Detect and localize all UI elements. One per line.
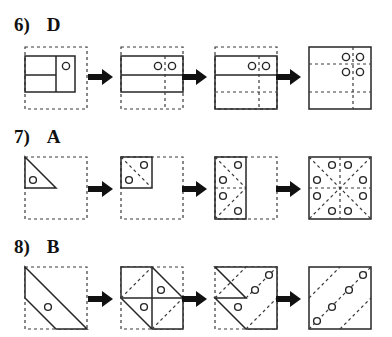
fold-shape-dashed-2: [340, 298, 371, 329]
hole-circle-0: [248, 62, 255, 69]
hole-circle-1: [329, 304, 336, 311]
right-arrow-glyph: [88, 181, 113, 197]
hole-circle-2: [314, 177, 321, 184]
hole-circle-2: [346, 287, 353, 294]
panel-7-3: [212, 154, 280, 222]
panel-6-3: [212, 44, 280, 112]
right-arrow-glyph: [182, 69, 207, 85]
right-arrow-icon: [88, 180, 114, 198]
hole-circle-3: [360, 272, 367, 279]
fold-shape-solid-0: [25, 56, 75, 92]
right-arrow-icon: [276, 68, 302, 86]
panel-8-3-graphic: [212, 264, 280, 332]
panel-8-1-graphic: [22, 264, 90, 332]
hole-circle-1: [235, 162, 242, 169]
fold-shape-dashed-0: [309, 267, 340, 298]
hole-circle-1: [158, 287, 165, 294]
right-arrow-glyph: [182, 181, 207, 197]
hole-circle-3: [356, 68, 363, 75]
panel-8-1: [22, 264, 90, 332]
panel-7-3-graphic: [212, 154, 280, 222]
hole-circle-0: [62, 62, 69, 69]
panel-6-4: [306, 44, 374, 112]
fold-shape-dashed-2: [215, 188, 246, 219]
hole-circle-4: [314, 193, 321, 200]
hole-circle-0: [329, 162, 336, 169]
row-7-label: 7)A: [14, 126, 61, 148]
panel-8-4-graphic: [306, 264, 374, 332]
hole-circle-1: [345, 162, 352, 169]
panel-7-1: [22, 154, 90, 222]
row-6-answer: D: [47, 14, 61, 36]
right-arrow-glyph: [276, 291, 301, 307]
panel-6-2-graphic: [118, 44, 186, 112]
hole-circle-1: [356, 53, 363, 60]
panel-8-3: [212, 264, 280, 332]
panel-8-2: [118, 264, 186, 332]
arrow-7-2: [182, 180, 208, 198]
panel-6-3-graphic: [212, 44, 280, 112]
right-arrow-icon: [182, 180, 208, 198]
right-arrow-icon: [182, 68, 208, 86]
hole-circle-0: [126, 177, 133, 184]
row-8-number: 8): [14, 236, 30, 257]
hole-circle-1: [168, 62, 175, 69]
hole-circle-1: [262, 62, 269, 69]
hole-circle-0: [235, 304, 242, 311]
panel-7-4-graphic: [306, 154, 374, 222]
panel-6-1: [22, 44, 90, 112]
fold-shape-solid-0: [121, 56, 183, 92]
row-6-label: 6)D: [14, 14, 61, 36]
arrow-7-3: [276, 180, 302, 198]
hole-circle-0: [45, 304, 52, 311]
hole-circle-0: [314, 318, 321, 325]
panel-7-2-graphic: [118, 154, 186, 222]
right-arrow-glyph: [88, 291, 113, 307]
panel-7-2: [118, 154, 186, 222]
hole-circle-1: [252, 287, 259, 294]
hole-circle-0: [154, 62, 161, 69]
fold-shape-dashed-1: [121, 157, 152, 188]
hole-circle-7: [345, 208, 352, 215]
right-arrow-icon: [276, 290, 302, 308]
arrow-8-3: [276, 290, 302, 308]
fold-shape-solid-0: [25, 267, 87, 329]
hole-circle-2: [266, 272, 273, 279]
row-8-label: 8)B: [14, 236, 60, 258]
right-arrow-glyph: [276, 181, 301, 197]
panel-8-4: [306, 264, 374, 332]
right-arrow-icon: [88, 68, 114, 86]
worksheet-sheet: 6)D7)A8)B: [0, 0, 392, 337]
row-6-number: 6): [14, 14, 30, 35]
arrow-6-3: [276, 68, 302, 86]
right-arrow-glyph: [276, 69, 301, 85]
right-arrow-icon: [182, 290, 208, 308]
row-8-answer: B: [47, 236, 60, 258]
row-7-answer: A: [47, 126, 61, 148]
hole-circle-3: [360, 177, 367, 184]
panel-8-2-graphic: [118, 264, 186, 332]
arrow-8-1: [88, 290, 114, 308]
hole-circle-6: [329, 208, 336, 215]
hole-circle-2: [220, 193, 227, 200]
right-arrow-icon: [88, 290, 114, 308]
hole-circle-0: [342, 53, 349, 60]
hole-circle-0: [220, 177, 227, 184]
right-arrow-glyph: [88, 69, 113, 85]
panel-6-4-graphic: [306, 44, 374, 112]
hole-circle-1: [141, 162, 148, 169]
hole-circle-5: [360, 193, 367, 200]
fold-shape-solid-0: [25, 157, 56, 188]
panel-6-2: [118, 44, 186, 112]
right-arrow-icon: [276, 180, 302, 198]
panel-7-4: [306, 154, 374, 222]
fold-shape-dashed-1: [215, 157, 246, 188]
hole-circle-2: [342, 68, 349, 75]
arrow-8-2: [182, 290, 208, 308]
arrow-7-1: [88, 180, 114, 198]
hole-circle-0: [30, 177, 37, 184]
row-7-number: 7): [14, 126, 30, 147]
arrow-6-1: [88, 68, 114, 86]
hole-circle-3: [235, 208, 242, 215]
arrow-6-2: [182, 68, 208, 86]
